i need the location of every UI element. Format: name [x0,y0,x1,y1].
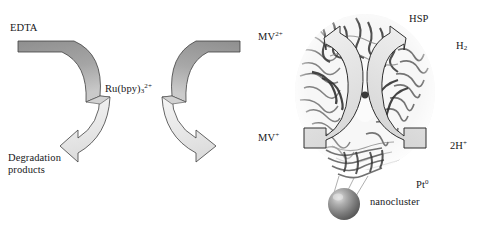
label-nanocluster: nanocluster [370,196,420,208]
cycle-arrow-methyl-viologen [162,41,240,162]
cycle-arrow-edta [18,41,110,162]
label-hydrogen: H2 [456,40,467,52]
label-photosensitizer-text: Ru(bpy) [105,83,141,94]
label-platinum-sup: 0 [425,178,429,186]
label-protons: 2H+ [450,139,467,152]
label-hydrogen-text: H [456,40,464,51]
label-degradation-products: Degradationproducts [8,152,61,177]
nanocluster-sphere [328,188,360,220]
label-mv-reduced: MV+ [258,131,279,144]
label-hsp: HSP [409,13,429,25]
label-mv-oxidized-text: MV [258,31,275,42]
label-platinum-text: Pt [416,179,425,190]
label-mv-oxidized-sup: 2+ [275,30,283,38]
label-platinum: Pt0 [416,178,429,191]
hsp-protein-structure [290,10,442,180]
label-degradation-line1: Degradation [8,152,61,163]
reaction-scheme-figure [0,0,484,225]
platinum-nanocluster [328,176,368,220]
label-edta: EDTA [10,22,38,34]
label-hydrogen-sub: 2 [464,44,468,52]
label-protons-text: 2H [450,140,463,151]
label-mv-reduced-sup: + [275,131,279,139]
label-degradation-line2: products [8,164,45,175]
label-mv-oxidized: MV2+ [258,30,283,43]
label-mv-reduced-text: MV [258,132,275,143]
label-protons-sup: + [463,139,467,147]
label-photosensitizer: Ru(bpy)32+ [105,82,152,95]
label-photosensitizer-sup: 2+ [144,82,152,90]
